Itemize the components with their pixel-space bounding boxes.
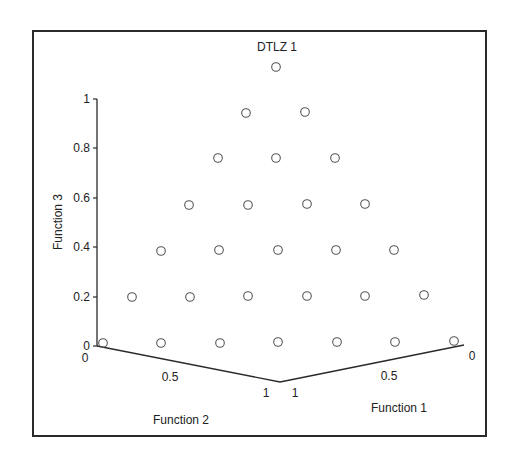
function-2-tick-labels: 00.51 xyxy=(82,351,270,400)
data-point-marker xyxy=(303,200,312,209)
data-point-marker xyxy=(185,201,194,210)
data-point-marker xyxy=(361,292,370,301)
data-point-marker xyxy=(331,154,340,163)
x-axis-label: Function 1 xyxy=(371,401,427,415)
data-point-marker xyxy=(333,338,342,347)
data-point-marker xyxy=(215,246,224,255)
z-axis-label: Function 3 xyxy=(51,194,65,250)
scatter-points xyxy=(99,63,459,348)
z-tick-label: 1 xyxy=(83,92,90,106)
data-point-marker xyxy=(390,246,399,255)
data-point-marker xyxy=(244,292,253,301)
data-point-marker xyxy=(272,63,281,72)
data-point-marker xyxy=(361,200,370,209)
function-2-tick-label: 0.5 xyxy=(162,370,179,384)
data-point-marker xyxy=(391,338,400,347)
data-point-marker xyxy=(157,339,166,348)
data-point-marker xyxy=(450,337,459,346)
data-point-marker xyxy=(244,201,253,210)
function-1-tick-label: 1 xyxy=(292,386,299,400)
y-axis-label: Function 2 xyxy=(153,413,209,427)
data-point-marker xyxy=(214,154,223,163)
function-2-tick-label: 1 xyxy=(263,386,270,400)
z-tick-label: 0.4 xyxy=(73,240,90,254)
data-point-marker xyxy=(332,246,341,255)
data-point-marker xyxy=(99,339,108,348)
z-tick-label: 0.8 xyxy=(73,141,90,155)
function-1-axis-line xyxy=(280,345,464,382)
data-point-marker xyxy=(242,109,251,118)
data-point-marker xyxy=(272,154,281,163)
function-2-axis-line xyxy=(97,346,280,382)
figure-frame xyxy=(33,31,486,436)
data-point-marker xyxy=(186,293,195,302)
function-2-tick-label: 0 xyxy=(82,351,89,365)
chart-title: DTLZ 1 xyxy=(257,40,297,54)
data-point-marker xyxy=(274,338,283,347)
z-tick-label: 0.2 xyxy=(73,290,90,304)
data-point-marker xyxy=(420,291,429,300)
z-tick-label: 0.6 xyxy=(73,191,90,205)
dtlz1-3d-scatter-figure: DTLZ 1 00.20.40.60.81 00.51 10.50 Functi… xyxy=(0,0,512,461)
data-point-marker xyxy=(274,246,283,255)
function-3-axis: 00.20.40.60.81 xyxy=(73,92,97,353)
function-1-tick-label: 0.5 xyxy=(381,369,398,383)
data-point-marker xyxy=(301,108,310,117)
data-point-marker xyxy=(157,247,166,256)
data-point-marker xyxy=(216,339,225,348)
data-point-marker xyxy=(128,293,137,302)
function-1-tick-label: 0 xyxy=(469,349,476,363)
z-axis-ticks: 00.20.40.60.81 xyxy=(73,92,97,353)
data-point-marker xyxy=(303,292,312,301)
